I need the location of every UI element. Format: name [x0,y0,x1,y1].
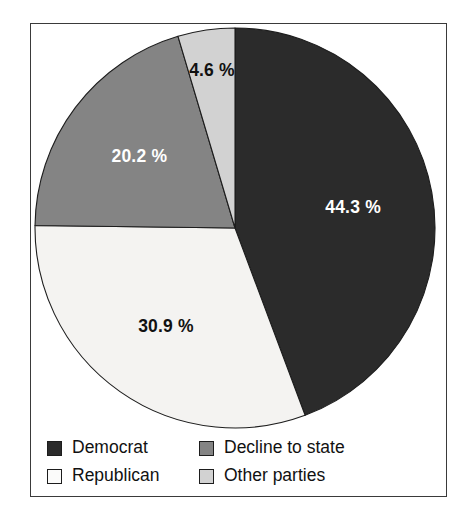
pie-svg: 44.3 %30.9 %20.2 %4.6 % [31,24,448,429]
legend-row: Republican Other parties [47,462,448,490]
legend-label-democrat: Democrat [72,439,148,457]
legend-item-other-parties[interactable]: Other parties [199,467,439,485]
legend-swatch-decline-to-state [199,441,214,456]
legend-item-decline-to-state[interactable]: Decline to state [199,439,439,457]
legend-item-democrat[interactable]: Democrat [47,439,199,457]
pie-chart-plot-area: 44.3 %30.9 %20.2 %4.6 % [31,24,448,429]
legend-swatch-other-parties [199,469,214,484]
legend-item-republican[interactable]: Republican [47,467,199,485]
legend-label-republican: Republican [72,467,160,485]
legend-swatch-republican [47,469,62,484]
pie-label-democrat: 44.3 % [325,197,381,217]
legend-label-other-parties: Other parties [224,467,325,485]
legend: Democrat Decline to state Republican Oth… [31,427,448,496]
legend-swatch-democrat [47,441,62,456]
pie-chart-figure: 44.3 %30.9 %20.2 %4.6 % Democrat Decline… [0,0,474,530]
pie-label-other-parties: 4.6 % [189,60,235,80]
legend-label-decline-to-state: Decline to state [224,439,345,457]
pie-slice-group [35,28,435,428]
pie-label-republican: 30.9 % [138,316,194,336]
legend-row: Democrat Decline to state [47,434,448,462]
pie-label-decline-to-state: 20.2 % [111,146,167,166]
figure-frame: 44.3 %30.9 %20.2 %4.6 % Democrat Decline… [30,23,447,497]
